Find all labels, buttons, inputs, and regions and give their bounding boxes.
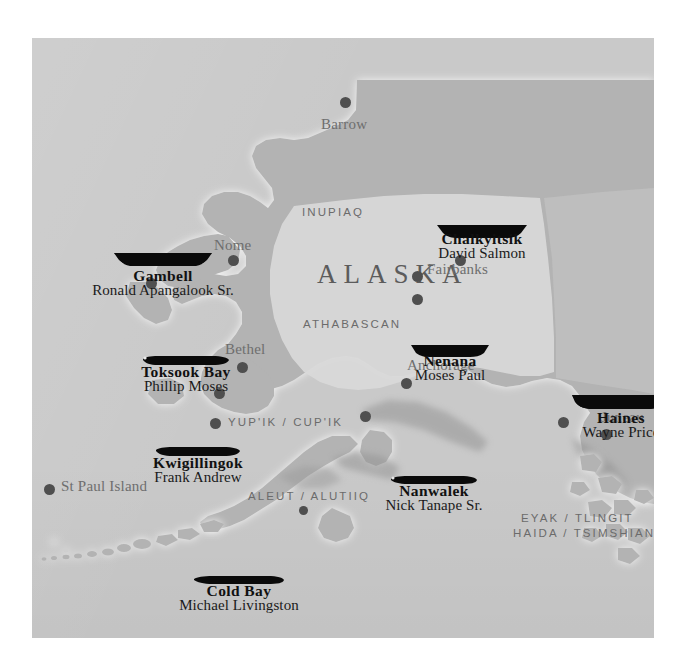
village-label-toksook-bay: Toksook Bay Phillip Moses [86, 364, 286, 395]
city-dot-barrow [340, 97, 351, 108]
village-person: Nick Tanape Sr. [334, 498, 534, 514]
map-page: ALASKA INUPIAQ ATHABASCAN YUP'IK / CUP'I… [0, 0, 687, 663]
village-person: David Salmon [382, 246, 582, 262]
village-person: Wayne Price [521, 425, 654, 441]
alaska-map-frame: ALASKA INUPIAQ ATHABASCAN YUP'IK / CUP'I… [32, 38, 654, 638]
village-label-kwigillingok: Kwigillingok Frank Andrew [98, 455, 298, 486]
village-label-gambell: Gambell Ronald Apangalook Sr. [63, 268, 263, 299]
region-label-inupiaq: INUPIAQ [302, 206, 364, 218]
village-person: Ronald Apangalook Sr. [63, 283, 263, 299]
village-label-chalkyitsik: Chalkyitsik David Salmon [382, 231, 582, 262]
city-label-bethel: Bethel [225, 342, 265, 358]
village-person: Frank Andrew [98, 470, 298, 486]
village-dot-cold-bay [299, 506, 308, 515]
region-label-eyak-tlingit: EYAK / TLINGIT [521, 512, 634, 524]
village-label-nenana: Nenana Moses Paul [350, 353, 550, 384]
region-label-athabascan: ATHABASCAN [303, 318, 401, 330]
city-label-barrow: Barrow [321, 117, 367, 133]
region-label-yupik-cupik: YUP'IK / CUP'IK [228, 416, 343, 428]
village-person: Michael Livingston [139, 598, 339, 614]
village-label-cold-bay: Cold Bay Michael Livingston [139, 583, 339, 614]
city-label-nome: Nome [214, 238, 251, 254]
village-dot-nanwalek [360, 411, 371, 422]
village-person: Phillip Moses [86, 379, 286, 395]
village-label-nanwalek: Nanwalek Nick Tanape Sr. [334, 483, 534, 514]
village-person: Moses Paul [350, 368, 550, 384]
city-dot-fairbanks [412, 271, 423, 282]
village-dot-nenana [412, 294, 423, 305]
village-dot-kwigillingok [210, 418, 221, 429]
region-label-haida-tsimshian: HAIDA / TSIMSHIAN [513, 527, 654, 539]
city-dot-st-paul-island [44, 484, 55, 495]
village-label-haines: Haines Wayne Price [521, 410, 654, 441]
city-dot-nome [228, 255, 239, 266]
